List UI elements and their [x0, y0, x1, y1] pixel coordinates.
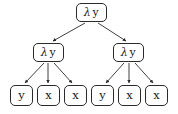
tree-edge-arrow	[106, 63, 124, 83]
variable-label: x	[126, 90, 133, 102]
tree-node-leaf-3: x	[64, 85, 87, 106]
variable-label: x	[45, 90, 52, 102]
tree-node-mid-left: λy	[33, 43, 64, 62]
tree-node-leaf-2: x	[37, 85, 60, 106]
tree-node-leaf-5: x	[118, 85, 141, 106]
lambda-term-tree-diagram: λyλyλyyxxyxx	[0, 0, 178, 114]
binder-variable: y	[49, 47, 56, 58]
tree-node-mid-right: λy	[113, 43, 144, 62]
tree-node-root: λy	[76, 3, 107, 22]
variable-label: y	[18, 90, 25, 102]
binder-variable: y	[129, 47, 136, 58]
tree-node-leaf-4: y	[91, 85, 114, 106]
variable-label: x	[72, 90, 79, 102]
tree-edge-arrow	[98, 23, 126, 41]
tree-edge-arrow	[135, 63, 153, 83]
variable-label: x	[153, 90, 160, 102]
tree-node-leaf-1: y	[10, 85, 33, 106]
binder-variable: y	[92, 7, 99, 18]
tree-edge-arrow	[53, 23, 85, 41]
tree-edge-arrow	[54, 63, 72, 83]
tree-node-leaf-6: x	[145, 85, 168, 106]
variable-label: y	[99, 90, 106, 102]
tree-edge-arrow	[25, 63, 44, 83]
